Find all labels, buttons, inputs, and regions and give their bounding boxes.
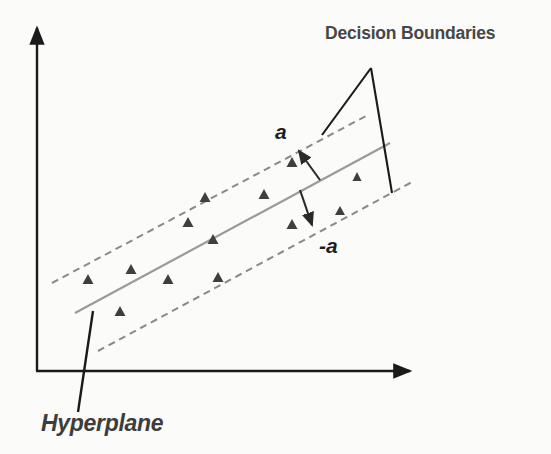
data-marker	[353, 172, 362, 181]
data-marker	[163, 274, 174, 284]
lower-decision-boundary-line	[98, 182, 412, 351]
hyperplane-pointer	[78, 311, 93, 412]
data-marker	[200, 192, 211, 202]
data-marker	[115, 306, 126, 316]
data-marker	[213, 272, 224, 282]
hyperplane-label: Hyperplane	[41, 410, 163, 437]
hyperplane-line	[75, 143, 390, 313]
data-marker	[126, 264, 137, 274]
margin-arrow-neg-a	[300, 190, 312, 225]
data-marker	[335, 206, 345, 215]
diagram-canvas	[0, 0, 551, 454]
decision-boundaries-label: Decision Boundaries	[325, 23, 495, 44]
pointer-leg-upper	[322, 68, 371, 135]
svm-diagram-figure: Decision Boundaries Hyperplane a -a	[0, 0, 551, 454]
margin-arrow-a	[299, 151, 320, 180]
pointer-leg-lower	[371, 68, 392, 193]
data-marker	[287, 219, 298, 229]
data-marker	[83, 274, 94, 284]
data-marker	[183, 217, 194, 227]
margin-neg-a-label: -a	[319, 234, 338, 258]
data-marker	[259, 189, 270, 199]
margin-a-label: a	[275, 120, 287, 144]
decision-boundaries-group	[52, 116, 412, 351]
